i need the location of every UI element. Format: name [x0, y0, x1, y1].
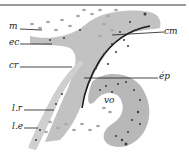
- label-m: m: [9, 22, 18, 31]
- diagram-figure: m ec cr cm ép vo l.r l.e: [0, 0, 189, 159]
- label-ec: ec: [9, 38, 19, 47]
- label-lr: l.r: [12, 104, 22, 113]
- label-cr: cr: [9, 61, 18, 70]
- label-vo: vo: [104, 96, 115, 105]
- label-ep: ép: [159, 72, 170, 81]
- label-cm: cm: [164, 27, 178, 36]
- label-le: l.e: [12, 122, 23, 131]
